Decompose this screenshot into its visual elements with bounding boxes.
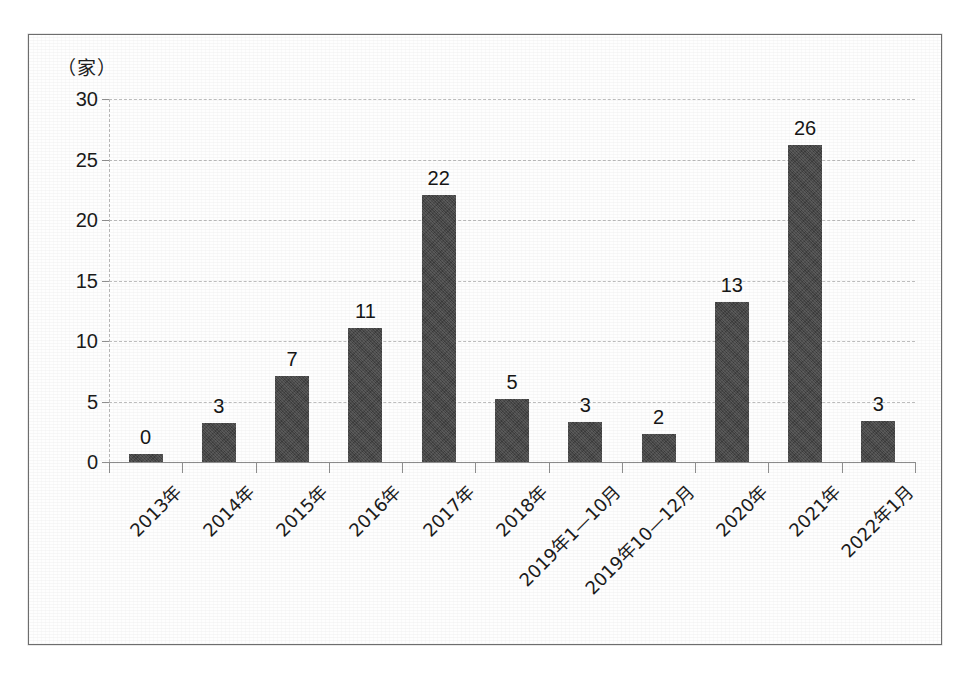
bar-chart: （家） 051015202530 037112253213263 2013年20… bbox=[29, 35, 943, 646]
y-tick-mark bbox=[102, 220, 109, 221]
x-axis-label: 2016年 bbox=[342, 478, 406, 542]
x-axis-label: 2021年 bbox=[782, 478, 846, 542]
bar[interactable] bbox=[568, 422, 602, 462]
x-axis-label: 2020年 bbox=[709, 478, 773, 542]
y-tick-label: 30 bbox=[76, 88, 98, 111]
bar-slot: 3 bbox=[182, 99, 255, 462]
y-tick-label: 20 bbox=[76, 209, 98, 232]
bar-value-label: 13 bbox=[721, 274, 743, 297]
y-tick-mark bbox=[102, 462, 109, 463]
bar-slot: 7 bbox=[256, 99, 329, 462]
x-tick-mark bbox=[109, 462, 110, 473]
bar-slot: 13 bbox=[695, 99, 768, 462]
bar-slot: 5 bbox=[475, 99, 548, 462]
y-tick-label: 25 bbox=[76, 148, 98, 171]
axis-baseline bbox=[109, 462, 915, 463]
figure-frame: （家） 051015202530 037112253213263 2013年20… bbox=[28, 34, 942, 645]
bar-value-label: 26 bbox=[794, 117, 816, 140]
bar-slot: 0 bbox=[109, 99, 182, 462]
y-tick-label: 5 bbox=[87, 390, 98, 413]
x-tick-mark bbox=[622, 462, 623, 473]
y-axis-unit-label: （家） bbox=[57, 53, 117, 80]
bar-slot: 22 bbox=[402, 99, 475, 462]
y-tick-label: 0 bbox=[87, 451, 98, 474]
y-tick-mark bbox=[102, 402, 109, 403]
bar[interactable] bbox=[202, 423, 236, 462]
bar-value-label: 5 bbox=[506, 371, 517, 394]
y-tick-mark bbox=[102, 99, 109, 100]
bar-value-label: 3 bbox=[873, 393, 884, 416]
x-axis-label: 2018年 bbox=[489, 478, 553, 542]
x-tick-mark bbox=[549, 462, 550, 473]
bar[interactable] bbox=[788, 145, 822, 462]
bar[interactable] bbox=[348, 328, 382, 462]
x-tick-mark bbox=[695, 462, 696, 473]
x-tick-mark bbox=[182, 462, 183, 473]
bar-slot: 26 bbox=[768, 99, 841, 462]
bar-slot: 3 bbox=[549, 99, 622, 462]
y-tick-mark bbox=[102, 281, 109, 282]
bar[interactable] bbox=[422, 195, 456, 462]
x-tick-mark bbox=[768, 462, 769, 473]
bar-slot: 2 bbox=[622, 99, 695, 462]
y-tick-label: 10 bbox=[76, 330, 98, 353]
x-tick-mark bbox=[402, 462, 403, 473]
bar[interactable] bbox=[495, 399, 529, 462]
y-tick-mark bbox=[102, 160, 109, 161]
bar-value-label: 7 bbox=[287, 348, 298, 371]
bar[interactable] bbox=[129, 454, 163, 462]
bar-value-label: 3 bbox=[213, 395, 224, 418]
bar[interactable] bbox=[642, 434, 676, 462]
bar[interactable] bbox=[275, 376, 309, 462]
x-tick-mark bbox=[915, 462, 916, 473]
x-tick-mark bbox=[475, 462, 476, 473]
bar[interactable] bbox=[715, 302, 749, 462]
x-axis-label: 2017年 bbox=[416, 478, 480, 542]
x-tick-mark bbox=[329, 462, 330, 473]
x-tick-mark bbox=[842, 462, 843, 473]
plot-area: 051015202530 037112253213263 2013年2014年2… bbox=[109, 99, 915, 462]
bar[interactable] bbox=[861, 421, 895, 462]
x-axis-label: 2022年1月 bbox=[834, 478, 918, 562]
x-axis-label: 2015年 bbox=[269, 478, 333, 542]
bar-value-label: 2 bbox=[653, 406, 664, 429]
x-axis-label: 2014年 bbox=[196, 478, 260, 542]
bar-slot: 3 bbox=[842, 99, 915, 462]
bar-slot: 11 bbox=[329, 99, 402, 462]
x-axis-label: 2013年 bbox=[122, 478, 186, 542]
y-tick-label: 15 bbox=[76, 269, 98, 292]
bar-value-label: 22 bbox=[428, 167, 450, 190]
x-tick-mark bbox=[256, 462, 257, 473]
y-tick-mark bbox=[102, 341, 109, 342]
bar-value-label: 3 bbox=[580, 394, 591, 417]
bar-value-label: 0 bbox=[140, 426, 151, 449]
bar-value-label: 11 bbox=[355, 300, 376, 323]
